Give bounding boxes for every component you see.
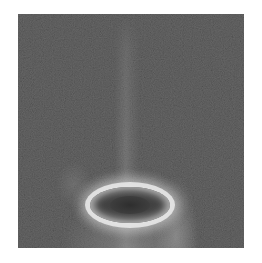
ring-dark-center — [110, 196, 150, 214]
grayscale-photo — [18, 14, 244, 248]
